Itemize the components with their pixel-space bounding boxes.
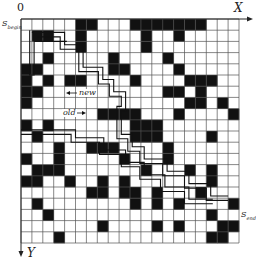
- obstacle-cell: [217, 221, 228, 233]
- origin-label: 0: [17, 2, 24, 13]
- grid-svg: [0, 0, 256, 264]
- y-axis-arrow-icon: [19, 251, 24, 257]
- obstacle-cell: [43, 75, 54, 87]
- obstacle-cell: [174, 221, 185, 233]
- obstacle-cell: [152, 19, 163, 31]
- obstacle-cell: [21, 75, 32, 87]
- obstacle-cell: [43, 165, 54, 177]
- obstacle-cell: [195, 75, 206, 87]
- obstacle-cell: [185, 19, 196, 31]
- old-path-label: old: [62, 109, 77, 117]
- obstacle-cell: [195, 97, 206, 109]
- obstacle-cell: [119, 187, 130, 199]
- obstacle-cell: [130, 198, 141, 210]
- obstacle-cell: [130, 120, 141, 132]
- obstacle-cell: [206, 131, 217, 143]
- obstacle-cell: [185, 97, 196, 109]
- obstacle-cell: [108, 142, 119, 154]
- obstacle-cell: [206, 176, 217, 188]
- obstacle-cell: [152, 198, 163, 210]
- obstacle-cell: [174, 198, 185, 210]
- obstacle-cell: [86, 19, 97, 31]
- obstacle-cell: [65, 176, 76, 188]
- obstacle-cell: [43, 53, 54, 65]
- obstacle-cell: [86, 187, 97, 199]
- obstacle-cell: [119, 176, 130, 188]
- obstacle-cell: [152, 131, 163, 143]
- obstacle-cell: [130, 75, 141, 87]
- old-arrow-icon: [82, 111, 86, 115]
- obstacle-cell: [108, 64, 119, 76]
- obstacle-cell: [152, 187, 163, 199]
- obstacle-cell: [185, 165, 196, 177]
- new-arrow-icon: [66, 91, 70, 95]
- obstacle-cell: [163, 142, 174, 154]
- obstacle-cell: [21, 97, 32, 109]
- obstacle-cell: [152, 221, 163, 233]
- obstacle-cell: [228, 221, 239, 233]
- obstacle-cell: [32, 198, 43, 210]
- obstacle-cell: [174, 19, 185, 31]
- obstacle-cell: [141, 131, 152, 143]
- obstacle-cell: [54, 165, 65, 177]
- obstacle-cell: [217, 97, 228, 109]
- obstacle-cell: [76, 30, 87, 42]
- obstacle-cell: [43, 209, 54, 221]
- obstacle-cell: [108, 53, 119, 65]
- obstacle-cell: [54, 142, 65, 154]
- obstacle-cell: [185, 75, 196, 87]
- obstacle-cell: [130, 109, 141, 121]
- obstacle-cell: [54, 153, 65, 165]
- grid-path-diagram: 0 X Y Sbegin Send new old: [0, 0, 256, 264]
- obstacle-cell: [65, 75, 76, 87]
- obstacle-cell: [206, 209, 217, 221]
- obstacle-cell: [228, 198, 239, 210]
- obstacle-cell: [76, 75, 87, 87]
- obstacle-cell: [174, 64, 185, 76]
- obstacle-cell: [163, 19, 174, 31]
- obstacle-cell: [21, 153, 32, 165]
- obstacle-cell: [206, 165, 217, 177]
- obstacle-cell: [97, 187, 108, 199]
- start-label: Sbegin: [2, 20, 22, 30]
- obstacle-cell: [32, 165, 43, 177]
- end-label: Send: [241, 211, 256, 221]
- obstacle-cell: [163, 86, 174, 98]
- new-path-label: new: [78, 89, 97, 97]
- obstacle-cell: [152, 120, 163, 132]
- obstacle-cell: [174, 109, 185, 121]
- obstacle-cell: [97, 176, 108, 188]
- obstacle-cell: [76, 41, 87, 53]
- obstacle-cell: [32, 86, 43, 98]
- obstacle-cell: [97, 221, 108, 233]
- obstacle-cell: [32, 176, 43, 188]
- obstacle-cell: [217, 232, 228, 244]
- x-axis-label: X: [234, 2, 243, 14]
- obstacle-cell: [97, 109, 108, 121]
- obstacle-cell: [228, 109, 239, 121]
- obstacle-cell: [21, 64, 32, 76]
- y-axis-label: Y: [27, 247, 35, 259]
- obstacle-cell: [141, 19, 152, 31]
- obstacle-cell: [163, 53, 174, 65]
- obstacle-cell: [21, 86, 32, 98]
- obstacle-cell: [174, 30, 185, 42]
- obstacle-cell: [195, 86, 206, 98]
- obstacle-cell: [21, 176, 32, 188]
- x-axis-arrow-icon: [247, 17, 253, 22]
- obstacle-cell: [108, 109, 119, 121]
- obstacle-cell: [32, 131, 43, 143]
- obstacle-cell: [119, 64, 130, 76]
- obstacle-cell: [76, 19, 87, 31]
- obstacle-cell: [206, 232, 217, 244]
- obstacle-cell: [130, 187, 141, 199]
- obstacle-cell: [141, 41, 152, 53]
- obstacle-cell: [206, 75, 217, 87]
- obstacle-cell: [54, 232, 65, 244]
- obstacle-cell: [195, 187, 206, 199]
- obstacle-cell: [174, 86, 185, 98]
- obstacle-cell: [195, 19, 206, 31]
- obstacle-cell: [141, 120, 152, 132]
- obstacle-cell: [141, 30, 152, 42]
- obstacle-cell: [86, 142, 97, 154]
